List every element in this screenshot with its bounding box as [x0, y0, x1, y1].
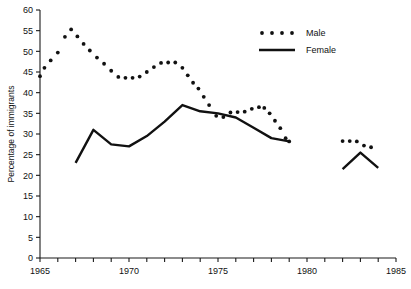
y-axis-label: Percentage of immigrants	[6, 86, 16, 183]
legend-item-female: Female	[259, 45, 336, 55]
data-point	[75, 35, 79, 39]
data-point	[278, 126, 282, 130]
data-point	[236, 110, 240, 114]
y-tick-label: 35	[23, 109, 33, 119]
y-tick-label: 25	[23, 150, 33, 160]
data-point	[82, 42, 86, 46]
legend-label: Male	[306, 28, 326, 38]
data-point	[138, 75, 142, 79]
data-point	[69, 28, 73, 32]
data-point	[202, 95, 206, 99]
chart-legend: MaleFemale	[259, 28, 336, 55]
y-tick-label: 15	[23, 191, 33, 201]
data-point	[63, 35, 67, 39]
data-point	[262, 106, 266, 110]
data-point	[173, 61, 177, 65]
data-point	[250, 107, 254, 111]
x-tick-label: 1985	[386, 266, 406, 276]
x-tick-label: 1965	[30, 266, 50, 276]
x-tick-label: 1970	[119, 266, 139, 276]
data-point	[38, 74, 42, 78]
y-tick-label: 0	[28, 253, 33, 263]
data-point	[102, 62, 106, 66]
data-point	[181, 66, 185, 70]
y-tick-label: 20	[23, 171, 33, 181]
legend-item-male: Male	[260, 28, 325, 38]
legend-swatch-dotted	[270, 31, 274, 35]
y-tick-label: 45	[23, 67, 33, 77]
series-line-segment	[343, 153, 379, 170]
chart-container: 051015202530354045505560 196519701975198…	[0, 0, 411, 289]
data-point	[56, 51, 60, 55]
y-tick-label: 5	[28, 233, 33, 243]
data-point	[159, 61, 163, 65]
data-point	[49, 59, 53, 63]
data-point	[229, 111, 233, 115]
data-point	[191, 81, 195, 85]
legend-swatch-dotted	[260, 31, 264, 35]
x-tick-label: 1975	[208, 266, 228, 276]
immigrants-percentage-line-chart: 051015202530354045505560 196519701975198…	[0, 0, 411, 289]
data-point	[88, 49, 92, 53]
x-axis: 19651970197519801985	[30, 258, 406, 276]
data-point	[131, 76, 135, 80]
data-point	[186, 73, 190, 77]
y-tick-label: 40	[23, 88, 33, 98]
legend-swatch-dotted	[280, 31, 284, 35]
y-axis-title: Percentage of immigrants	[6, 86, 16, 183]
data-point	[268, 111, 272, 115]
legend-label: Female	[306, 45, 336, 55]
data-point	[109, 69, 113, 73]
data-point	[273, 119, 277, 123]
y-tick-label: 60	[23, 5, 33, 15]
data-point	[43, 66, 47, 70]
data-point	[95, 56, 99, 60]
data-point	[197, 87, 201, 91]
data-point	[348, 139, 352, 143]
legend-swatch-dotted	[290, 31, 294, 35]
y-tick-label: 55	[23, 26, 33, 36]
data-point	[152, 65, 156, 69]
series-line-segment	[76, 105, 290, 163]
data-point	[207, 103, 211, 107]
y-tick-label: 50	[23, 47, 33, 57]
series-female	[40, 105, 378, 169]
data-point	[116, 75, 120, 79]
data-point	[124, 76, 128, 80]
data-point	[145, 70, 149, 74]
data-point	[362, 144, 366, 148]
x-tick-label: 1980	[297, 266, 317, 276]
y-tick-label: 10	[23, 212, 33, 222]
y-tick-label: 30	[23, 129, 33, 139]
data-point	[166, 61, 170, 65]
data-point	[341, 139, 345, 143]
data-point	[243, 110, 247, 114]
data-point	[355, 140, 359, 144]
data-point	[257, 105, 261, 109]
y-axis: 051015202530354045505560	[23, 5, 40, 263]
data-point	[369, 145, 373, 149]
